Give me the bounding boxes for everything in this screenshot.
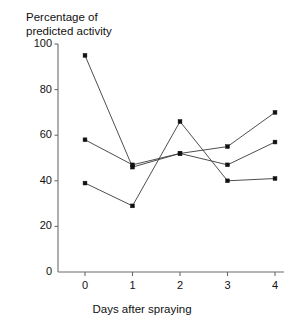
data-point-marker: [131, 163, 135, 167]
data-point-marker: [178, 152, 182, 156]
x-axis-title: Days after spraying: [0, 303, 284, 315]
y-axis-title-line1: Percentage of: [26, 10, 112, 24]
y-tick-label: 80: [22, 83, 52, 95]
data-point-marker: [83, 138, 87, 142]
data-point-marker: [273, 177, 277, 181]
data-point-marker: [226, 179, 230, 183]
x-tick-label: 4: [265, 279, 284, 291]
data-point-marker: [226, 163, 230, 167]
y-tick-label: 60: [22, 128, 52, 140]
cut-off-header-text: [0, 0, 284, 5]
x-tick-label: 2: [170, 279, 190, 291]
y-tick-label: 0: [22, 265, 52, 277]
y-tick-label: 40: [22, 174, 52, 186]
x-tick-label: 1: [123, 279, 143, 291]
x-tick-label: 0: [75, 279, 95, 291]
data-series-group: [83, 54, 277, 208]
line-chart-figure: Percentage of predicted activity 0204060…: [0, 0, 284, 326]
data-point-marker: [273, 111, 277, 115]
data-point-marker: [83, 181, 87, 185]
data-point-marker: [83, 54, 87, 58]
data-point-marker: [226, 145, 230, 149]
series-line-3: [85, 122, 275, 206]
y-tick-label: 20: [22, 219, 52, 231]
data-point-marker: [131, 204, 135, 208]
data-point-marker: [273, 140, 277, 144]
data-point-marker: [178, 120, 182, 124]
axes: [55, 44, 285, 276]
y-tick-label: 100: [22, 37, 52, 49]
series-line-1: [85, 55, 275, 167]
y-axis-title-line2: predicted activity: [26, 24, 112, 38]
x-tick-label: 3: [218, 279, 238, 291]
y-axis-title: Percentage of predicted activity: [26, 10, 112, 38]
